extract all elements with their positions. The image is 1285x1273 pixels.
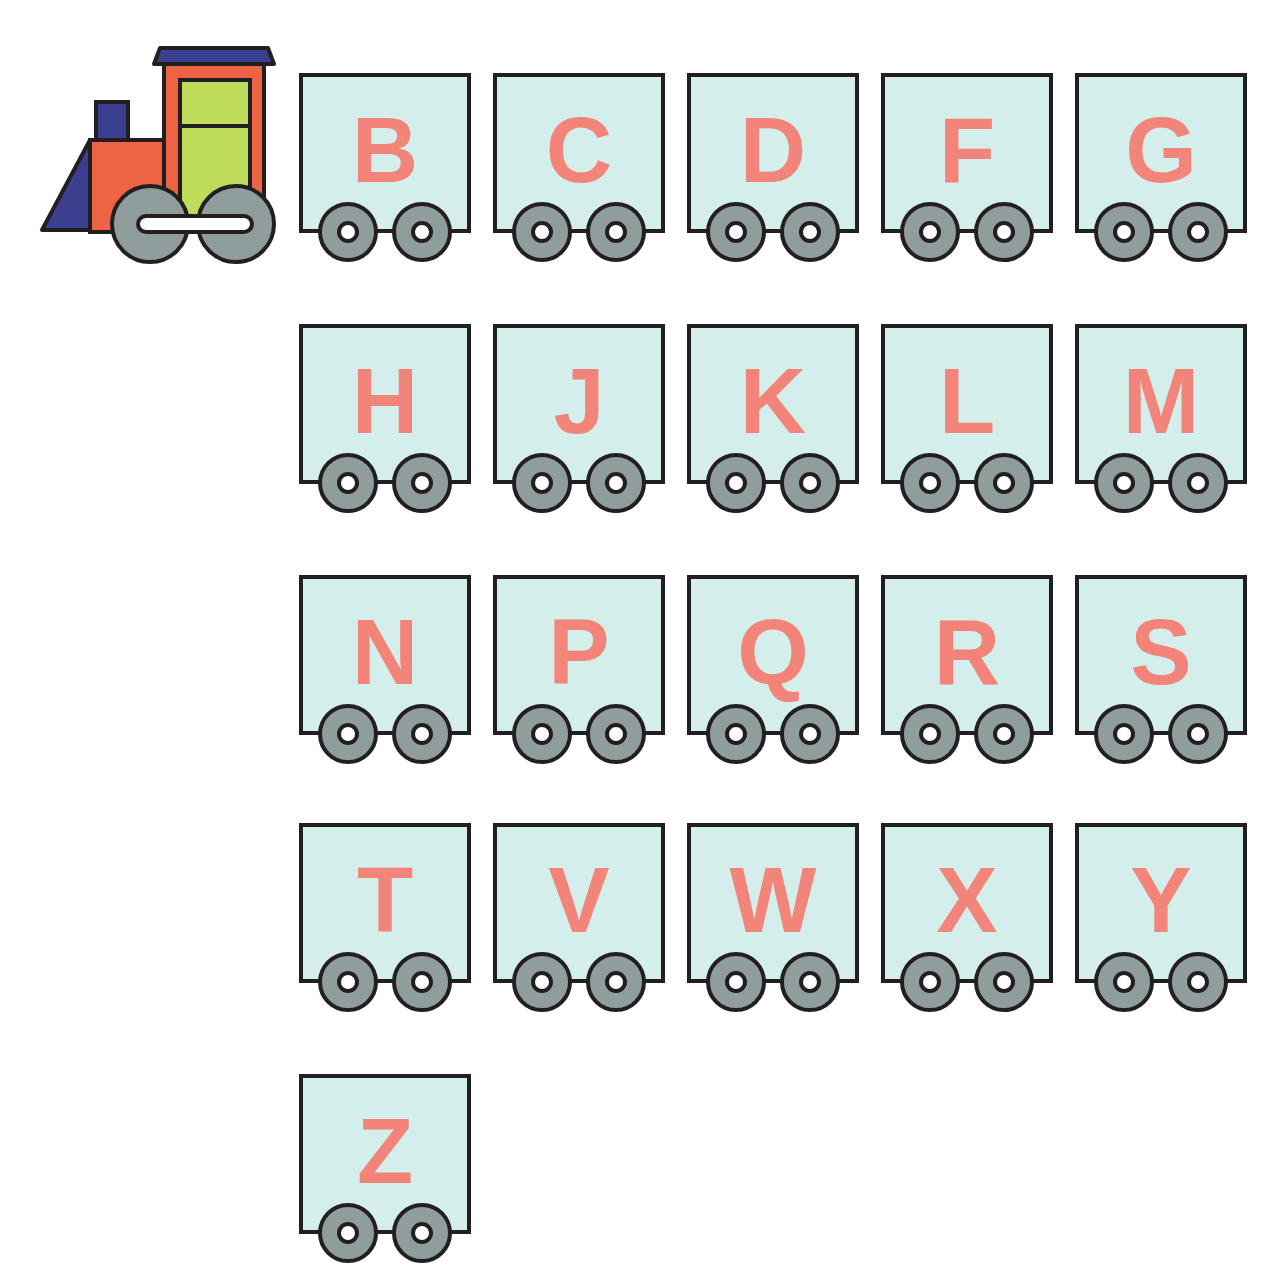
- car-letter: B: [302, 90, 468, 210]
- train-car-k: K: [686, 323, 860, 515]
- train-engine-icon: [38, 44, 278, 270]
- train-car-r: R: [880, 574, 1054, 766]
- train-car-t: T: [298, 822, 472, 1014]
- train-car-q: Q: [686, 574, 860, 766]
- car-letter: T: [302, 840, 468, 960]
- locomotive: [38, 44, 278, 270]
- train-car-h: H: [298, 323, 472, 515]
- train-car-w: W: [686, 822, 860, 1014]
- car-letter: J: [496, 341, 662, 461]
- train-car-b: B: [298, 72, 472, 264]
- train-car-j: J: [492, 323, 666, 515]
- car-letter: D: [690, 90, 856, 210]
- train-car-p: P: [492, 574, 666, 766]
- car-letter: L: [884, 341, 1050, 461]
- car-letter: S: [1078, 592, 1244, 712]
- car-letter: M: [1078, 341, 1244, 461]
- train-car-c: C: [492, 72, 666, 264]
- car-letter: F: [884, 90, 1050, 210]
- car-letter: N: [302, 592, 468, 712]
- car-letter: Q: [690, 592, 856, 712]
- train-car-d: D: [686, 72, 860, 264]
- car-letter: W: [690, 840, 856, 960]
- car-letter: C: [496, 90, 662, 210]
- car-letter: R: [884, 592, 1050, 712]
- train-car-l: L: [880, 323, 1054, 515]
- train-car-z: Z: [298, 1073, 472, 1265]
- train-car-n: N: [298, 574, 472, 766]
- car-letter: H: [302, 341, 468, 461]
- train-car-y: Y: [1074, 822, 1248, 1014]
- train-car-g: G: [1074, 72, 1248, 264]
- train-car-f: F: [880, 72, 1054, 264]
- car-letter: P: [496, 592, 662, 712]
- car-letter: G: [1078, 90, 1244, 210]
- train-car-s: S: [1074, 574, 1248, 766]
- train-car-v: V: [492, 822, 666, 1014]
- car-letter: X: [884, 840, 1050, 960]
- car-letter: K: [690, 341, 856, 461]
- car-letter: Y: [1078, 840, 1244, 960]
- train-car-m: M: [1074, 323, 1248, 515]
- car-letter: V: [496, 840, 662, 960]
- train-car-x: X: [880, 822, 1054, 1014]
- car-letter: Z: [302, 1091, 468, 1211]
